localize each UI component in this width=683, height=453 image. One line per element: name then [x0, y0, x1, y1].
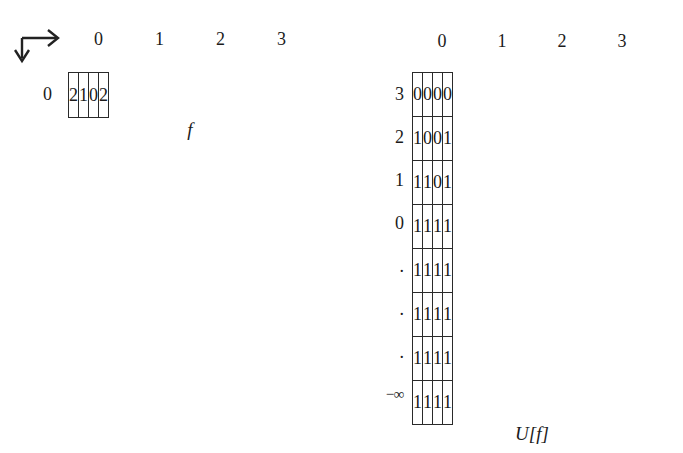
- matrix-cell: 1: [413, 293, 423, 337]
- matrix-cell: 0: [423, 73, 433, 117]
- table-row: 0 0 0 0: [413, 73, 453, 117]
- matrix-row-label-column: 3 2 1 0 . . . −∞: [358, 72, 404, 416]
- matrix-cell: 1: [413, 381, 423, 425]
- matrix-cell: 1: [423, 161, 433, 205]
- matrix-cell: 1: [443, 293, 453, 337]
- matrix-cell: 1: [423, 293, 433, 337]
- array-cell: 2: [69, 73, 79, 118]
- matrix-cell: 1: [433, 205, 443, 249]
- matrix-caption-uf: U[f]: [412, 424, 652, 443]
- array-column-header-row: 0 1 2 3: [68, 30, 312, 48]
- array-cell: 1: [79, 73, 89, 118]
- array-column-header: 1: [129, 30, 190, 48]
- table-row: 1 1 1 1: [413, 205, 453, 249]
- matrix-cell: 1: [433, 249, 443, 293]
- matrix-cell: 1: [443, 249, 453, 293]
- table-row: 2 1 0 2: [69, 73, 109, 118]
- matrix-cell: 1: [413, 337, 423, 381]
- matrix-column-header: 1: [472, 32, 532, 50]
- table-row: 1 1 1 1: [413, 381, 453, 425]
- array-cell: 2: [99, 73, 109, 118]
- matrix-row-label-negative-infinity: −∞: [358, 373, 404, 416]
- matrix-cell: 1: [433, 293, 443, 337]
- matrix-row-label: .: [358, 244, 404, 287]
- matrix-grid-uf: 0 0 0 0 1 0 0 1 1 1 0 1 1 1 1 1: [412, 72, 453, 425]
- matrix-cell: 0: [433, 161, 443, 205]
- matrix-cell: 0: [423, 117, 433, 161]
- matrix-cell: 1: [443, 205, 453, 249]
- matrix-cell: 0: [413, 73, 423, 117]
- matrix-cell: 1: [423, 249, 433, 293]
- matrix-cell: 1: [443, 337, 453, 381]
- matrix-row-label: 1: [358, 158, 404, 201]
- array-column-header: 2: [190, 30, 251, 48]
- matrix-cell: 1: [433, 381, 443, 425]
- matrix-row-label: 2: [358, 115, 404, 158]
- array-caption-f: f: [68, 120, 312, 139]
- table-row: 1 0 0 1: [413, 117, 453, 161]
- matrix-column-header: 0: [412, 32, 472, 50]
- matrix-cell: 1: [423, 381, 433, 425]
- matrix-cell: 0: [433, 73, 443, 117]
- matrix-cell: 1: [443, 117, 453, 161]
- matrix-cell: 0: [443, 73, 453, 117]
- array-column-header: 0: [68, 30, 129, 48]
- matrix-row-label: .: [358, 330, 404, 373]
- table-row: 1 1 1 1: [413, 337, 453, 381]
- array-cell: 0: [89, 73, 99, 118]
- matrix-cell: 1: [443, 161, 453, 205]
- array-column-header: 3: [251, 30, 312, 48]
- table-row: 1 1 1 1: [413, 249, 453, 293]
- matrix-cell: 1: [423, 337, 433, 381]
- table-row: 1 1 0 1: [413, 161, 453, 205]
- matrix-cell: 1: [413, 205, 423, 249]
- matrix-cell: 0: [433, 117, 443, 161]
- matrix-row-label: 0: [358, 201, 404, 244]
- axis-arrows-icon: [14, 14, 66, 68]
- matrix-cell: 1: [423, 205, 433, 249]
- array-row-label: 0: [6, 72, 52, 116]
- matrix-cell: 1: [413, 249, 423, 293]
- axis-orientation-indicator: [14, 14, 66, 68]
- array-row-label-column: 0: [6, 72, 52, 116]
- matrix-column-header: 3: [592, 32, 652, 50]
- matrix-cell: 1: [413, 117, 423, 161]
- matrix-cell: 1: [413, 161, 423, 205]
- matrix-cell: 1: [443, 381, 453, 425]
- matrix-row-label: .: [358, 287, 404, 330]
- table-row: 1 1 1 1: [413, 293, 453, 337]
- array-grid-f: 2 1 0 2: [68, 72, 109, 118]
- matrix-column-header-row: 0 1 2 3: [412, 32, 652, 50]
- matrix-cell: 1: [433, 337, 443, 381]
- matrix-column-header: 2: [532, 32, 592, 50]
- matrix-row-label: 3: [358, 72, 404, 115]
